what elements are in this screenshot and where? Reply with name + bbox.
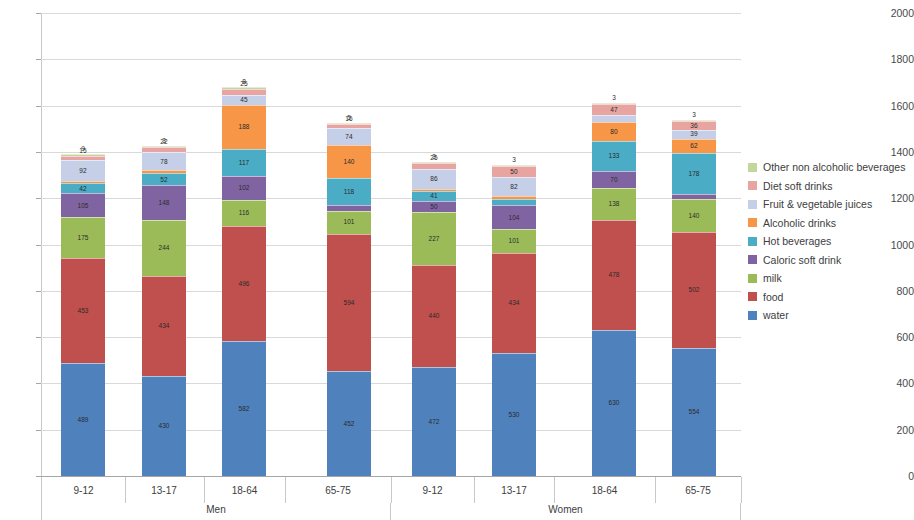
bar-segment[interactable]: 452 <box>327 371 371 476</box>
bar-segment[interactable]: 3 <box>672 120 716 121</box>
bar-segment[interactable]: 178 <box>672 153 716 194</box>
bar-segment[interactable]: 9 <box>61 154 105 156</box>
bar-segment[interactable]: 29 <box>492 199 536 206</box>
bar-segment[interactable]: 3 <box>592 103 636 104</box>
bar-segment[interactable]: 117 <box>222 149 266 176</box>
legend-item[interactable]: Fruit & vegetable juices <box>748 195 905 214</box>
bar-segment[interactable]: 489 <box>61 363 105 476</box>
bar-segment[interactable]: 10 <box>412 189 456 191</box>
bar-segment[interactable]: 3 <box>492 165 536 166</box>
bar-stack[interactable]: 4525941012411814074165 <box>327 123 371 476</box>
bar-stack[interactable]: 630478138701338030473 <box>592 103 636 476</box>
bar-segment[interactable]: 104 <box>492 205 536 229</box>
bar-stack[interactable]: 58249611610211718845258 <box>222 87 266 476</box>
bar-segment[interactable]: 148 <box>142 185 186 219</box>
plot-area: 4894531751054210921594304342441485212782… <box>41 13 741 476</box>
legend-item[interactable]: milk <box>748 269 905 288</box>
bar-segment[interactable]: 133 <box>592 141 636 172</box>
bar-segment[interactable]: 138 <box>592 188 636 220</box>
bar-segment[interactable]: 496 <box>222 226 266 341</box>
bar-segment[interactable]: 15 <box>61 156 105 159</box>
bar-segment[interactable]: 175 <box>61 217 105 258</box>
bar-segment[interactable]: 434 <box>492 253 536 353</box>
bar-segment[interactable]: 594 <box>327 234 371 372</box>
bar-segment[interactable]: 430 <box>142 376 186 476</box>
bar-segment[interactable]: 105 <box>61 193 105 217</box>
bar-segment[interactable]: 82 <box>492 177 536 196</box>
bar-segment[interactable]: 24 <box>327 205 371 211</box>
bar-segment[interactable]: 453 <box>61 258 105 363</box>
bar-segment[interactable]: 25 <box>222 89 266 95</box>
bar-segment[interactable]: 434 <box>142 276 186 376</box>
bar-segment[interactable]: 12 <box>142 170 186 173</box>
bar-segment[interactable]: 630 <box>592 330 636 476</box>
bar-stack[interactable]: 554502140211786239363 <box>672 120 716 476</box>
bar-segment[interactable]: 21 <box>672 194 716 199</box>
bar-segment[interactable]: 92 <box>61 160 105 181</box>
legend-item-label: water <box>763 309 789 321</box>
bar-segment[interactable]: 440 <box>412 265 456 367</box>
legend-item-label: Caloric soft drink <box>763 254 841 266</box>
bar-segment[interactable]: 530 <box>492 353 536 476</box>
bar-segment-value-label: 78 <box>160 159 167 166</box>
bar-segment[interactable]: 86 <box>412 169 456 189</box>
bar-segment[interactable]: 140 <box>672 199 716 231</box>
bar-segment[interactable]: 42 <box>61 183 105 193</box>
bar-stack[interactable]: 530434101104291082503 <box>492 165 536 476</box>
bar-segment-value-label: 244 <box>158 245 169 252</box>
bar-stack[interactable]: 430434244148521278223 <box>142 146 186 476</box>
bar-segment[interactable]: 50 <box>492 166 536 178</box>
bar-segment[interactable]: 8 <box>222 87 266 89</box>
bar-segment[interactable]: 3 <box>412 162 456 163</box>
bar-segment[interactable]: 478 <box>592 220 636 331</box>
category-tick-label: 65-75 <box>655 477 742 503</box>
bar-segment[interactable]: 188 <box>222 105 266 149</box>
bar-segment[interactable]: 39 <box>672 130 716 139</box>
bar-segment[interactable]: 10 <box>61 181 105 183</box>
bar-segment[interactable]: 582 <box>222 341 266 476</box>
bar-stack[interactable]: 47244022750411086253 <box>412 162 456 476</box>
bar-segment[interactable]: 41 <box>412 191 456 200</box>
bar-segment[interactable]: 25 <box>412 163 456 169</box>
bar-segment[interactable]: 140 <box>327 145 371 177</box>
bar-segment[interactable]: 118 <box>327 178 371 205</box>
bar-segment[interactable]: 78 <box>142 152 186 170</box>
bar-segment[interactable]: 227 <box>412 212 456 265</box>
bar-segment-value-label: 5 <box>327 115 371 122</box>
bar-segment[interactable]: 50 <box>412 201 456 213</box>
bar-segment[interactable]: 244 <box>142 220 186 276</box>
legend-item[interactable]: food <box>748 288 905 307</box>
bar-segment[interactable]: 101 <box>492 229 536 252</box>
bar-segment[interactable]: 101 <box>327 211 371 234</box>
legend-item[interactable]: Alcoholic drinks <box>748 214 905 233</box>
bar-segment[interactable]: 102 <box>222 176 266 200</box>
bar-segment[interactable]: 22 <box>142 147 186 152</box>
bar-segment[interactable]: 5 <box>327 123 371 124</box>
bar-segment[interactable]: 36 <box>672 121 716 129</box>
bar-segment[interactable]: 47 <box>592 104 636 115</box>
bar-segment[interactable]: 52 <box>142 173 186 185</box>
legend-item-label: Diet soft drinks <box>763 180 832 192</box>
bar-segment[interactable]: 554 <box>672 348 716 476</box>
legend-item[interactable]: water <box>748 306 905 325</box>
legend-item[interactable]: Hot beverages <box>748 232 905 251</box>
bar-segment[interactable]: 16 <box>327 124 371 128</box>
bar-segment[interactable]: 472 <box>412 367 456 476</box>
bar-segment[interactable]: 30 <box>592 115 636 122</box>
legend-item[interactable]: Diet soft drinks <box>748 177 905 196</box>
legend-color-swatch <box>748 218 757 227</box>
legend-item[interactable]: Caloric soft drink <box>748 251 905 270</box>
bar-segment[interactable]: 502 <box>672 232 716 348</box>
bar-segment[interactable]: 3 <box>142 146 186 147</box>
bar-segment[interactable]: 116 <box>222 200 266 227</box>
bar-segment[interactable]: 10 <box>492 196 536 198</box>
legend-item[interactable]: Other non alcoholic beverages <box>748 158 905 177</box>
bar-segment[interactable]: 74 <box>327 128 371 145</box>
bar-segment[interactable]: 80 <box>592 122 636 141</box>
bar-segment[interactable]: 62 <box>672 139 716 153</box>
bar-stack[interactable]: 489453175105421092159 <box>61 154 105 476</box>
bar-segment-value-label: 45 <box>240 97 247 104</box>
bar-segment[interactable]: 70 <box>592 171 636 187</box>
bar-segment-value-label: 36 <box>690 123 697 130</box>
bar-segment[interactable]: 45 <box>222 95 266 105</box>
